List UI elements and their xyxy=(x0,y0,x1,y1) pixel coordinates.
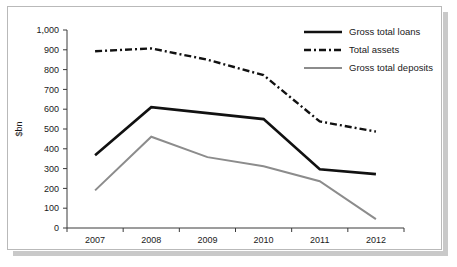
legend-label: Total assets xyxy=(349,44,399,55)
y-tick-label: 700 xyxy=(44,85,59,95)
y-axis-ticks: 01002003004005006007008009001,000 xyxy=(36,25,67,233)
y-tick-label: 800 xyxy=(44,65,59,75)
y-tick-label: 300 xyxy=(44,164,59,174)
y-tick-label: 600 xyxy=(44,104,59,114)
x-axis-ticks: 200720082009201020112012 xyxy=(67,228,404,245)
series-lines xyxy=(95,48,376,219)
x-tick-label: 2012 xyxy=(366,235,386,245)
legend-label: Gross total loans xyxy=(349,26,421,37)
chart-figure: 01002003004005006007008009001,000 200720… xyxy=(0,0,457,267)
legend-label: Gross total deposits xyxy=(349,62,433,73)
y-tick-label: 900 xyxy=(44,45,59,55)
chart-legend: Gross total loansTotal assetsGross total… xyxy=(304,26,433,73)
series-line-gross-total-loans xyxy=(95,107,376,174)
series-line-gross-total-deposits xyxy=(95,137,376,219)
y-tick-label: 500 xyxy=(44,124,59,134)
y-tick-label: 200 xyxy=(44,184,59,194)
x-tick-label: 2010 xyxy=(254,235,274,245)
y-tick-label: 100 xyxy=(44,203,59,213)
y-tick-label: 1,000 xyxy=(36,25,59,35)
x-tick-label: 2009 xyxy=(197,235,217,245)
line-chart: 01002003004005006007008009001,000 200720… xyxy=(0,0,457,267)
x-tick-label: 2008 xyxy=(141,235,161,245)
y-tick-label: 400 xyxy=(44,144,59,154)
x-tick-label: 2011 xyxy=(310,235,329,245)
x-tick-label: 2007 xyxy=(85,235,105,245)
y-axis-title: $bn xyxy=(14,121,24,136)
y-tick-label: 0 xyxy=(54,223,59,233)
